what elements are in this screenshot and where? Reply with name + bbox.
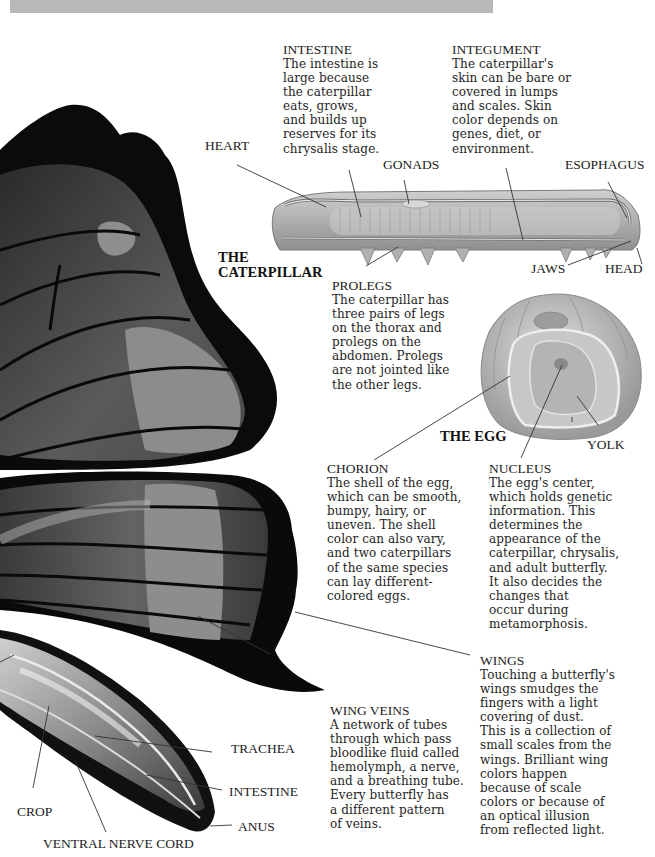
- note-prolegs-heading: PROLEGS: [332, 279, 449, 293]
- label-esophagus: ESOPHAGUS: [565, 157, 645, 172]
- note-chorion-heading: CHORION: [327, 462, 461, 476]
- label-gonads: GONADS: [383, 157, 439, 172]
- note-wing-veins-text: A network of tubes through which pass bl…: [330, 718, 464, 831]
- note-integument: INTEGUMENT The caterpillar's skin can be…: [452, 43, 571, 156]
- note-wings-text: Touching a butterfly's wings smudges the…: [480, 668, 615, 837]
- note-chorion-text: The shell of the egg, which can be smoot…: [327, 476, 461, 603]
- egg-title: THE EGG: [440, 429, 506, 444]
- note-nucleus-text: The egg's center, which holds genetic in…: [489, 476, 619, 631]
- forewing: [0, 105, 277, 470]
- note-intestine-text: The intestine is large because the cater…: [283, 57, 379, 156]
- label-heart: HEART: [205, 138, 249, 153]
- note-wing-veins: WING VEINS A network of tubes through wh…: [330, 704, 464, 831]
- note-wings-heading: WINGS: [480, 654, 615, 668]
- note-prolegs-text: The caterpillar has three pairs of legs …: [332, 293, 449, 392]
- label-jaws: JAWS: [531, 261, 565, 276]
- label-intestine-adult: INTESTINE: [229, 784, 298, 799]
- note-intestine: INTESTINE The intestine is large because…: [283, 43, 379, 156]
- label-crop: CROP: [17, 804, 52, 819]
- note-wings: WINGS Touching a butterfly's wings smudg…: [480, 654, 615, 837]
- note-chorion: CHORION The shell of the egg, which can …: [327, 462, 461, 603]
- label-trachea: TRACHEA: [231, 741, 295, 756]
- caterpillar-title-line1: THE: [218, 249, 249, 265]
- label-yolk: YOLK: [587, 437, 625, 452]
- abdomen: [0, 630, 215, 831]
- label-ventral-nerve-cord: VENTRAL NERVE CORD: [43, 836, 194, 851]
- caterpillar-title: THE CATERPILLAR: [218, 250, 322, 280]
- caterpillar-title-line2: CATERPILLAR: [218, 264, 322, 280]
- note-prolegs: PROLEGS The caterpillar has three pairs …: [332, 279, 449, 392]
- label-head: HEAD: [605, 261, 643, 276]
- note-integument-heading: INTEGUMENT: [452, 43, 571, 57]
- note-integument-text: The caterpillar's skin can be bare or co…: [452, 57, 571, 156]
- note-intestine-heading: INTESTINE: [283, 43, 379, 57]
- note-nucleus-heading: NUCLEUS: [489, 462, 619, 476]
- label-anus: ANUS: [238, 819, 275, 834]
- note-nucleus: NUCLEUS The egg's center, which holds ge…: [489, 462, 619, 631]
- note-wing-veins-heading: WING VEINS: [330, 704, 464, 718]
- caterpillar: [272, 190, 640, 265]
